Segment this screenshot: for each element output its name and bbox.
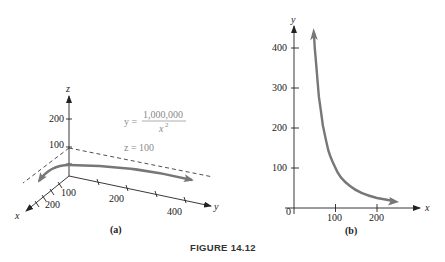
y-tick-label-400: 400 bbox=[167, 206, 182, 217]
figure-canvas: z 200 100 100 200 x 200 400 y y = 1,000,… bbox=[0, 0, 445, 262]
y-tick-label-200: 200 bbox=[272, 122, 287, 133]
x-tick-label-200: 200 bbox=[369, 212, 384, 223]
x-tick-label-100: 100 bbox=[327, 212, 342, 223]
panel-a-3d-plot: z 200 100 100 200 x 200 400 y y = 1,000,… bbox=[14, 83, 219, 236]
equation-lhs: y = bbox=[124, 116, 138, 127]
panel-a-label: (a) bbox=[110, 224, 122, 236]
x-tick-label-200: 200 bbox=[45, 199, 60, 210]
equation-numerator: 1,000,000 bbox=[143, 109, 183, 120]
equation-exponent: 2 bbox=[165, 121, 169, 129]
panel-b-2d-plot: y 400 300 200 100 0 100 200 x (b) bbox=[272, 14, 430, 237]
y-tick-label-300: 300 bbox=[272, 82, 287, 93]
plane-label: z = 100 bbox=[124, 142, 154, 153]
y-tick-label-200: 200 bbox=[109, 193, 124, 204]
x-axis-label-2d: x bbox=[424, 202, 430, 213]
z-tick-label-100: 100 bbox=[49, 139, 64, 150]
equation-denominator: x bbox=[158, 123, 164, 134]
figure-caption: FIGURE 14.12 bbox=[190, 242, 256, 253]
y-ticks-2d bbox=[291, 48, 299, 168]
x-tick-label-100: 100 bbox=[61, 187, 76, 198]
curve-3d bbox=[39, 165, 69, 181]
y-tick-label-400: 400 bbox=[272, 42, 287, 53]
z-tick-label-200: 200 bbox=[49, 113, 64, 124]
curve-2d bbox=[314, 33, 394, 201]
curve-3d-right bbox=[69, 165, 192, 180]
origin-label: 0 bbox=[286, 206, 291, 217]
panel-b-label: (b) bbox=[345, 225, 357, 237]
x-axis-label-3d: x bbox=[14, 210, 20, 221]
z-axis-label: z bbox=[65, 83, 70, 94]
y-axis-label-2d: y bbox=[290, 14, 296, 25]
y-axis-label-3d: y bbox=[213, 201, 219, 212]
y-tick-label-100: 100 bbox=[272, 162, 287, 173]
